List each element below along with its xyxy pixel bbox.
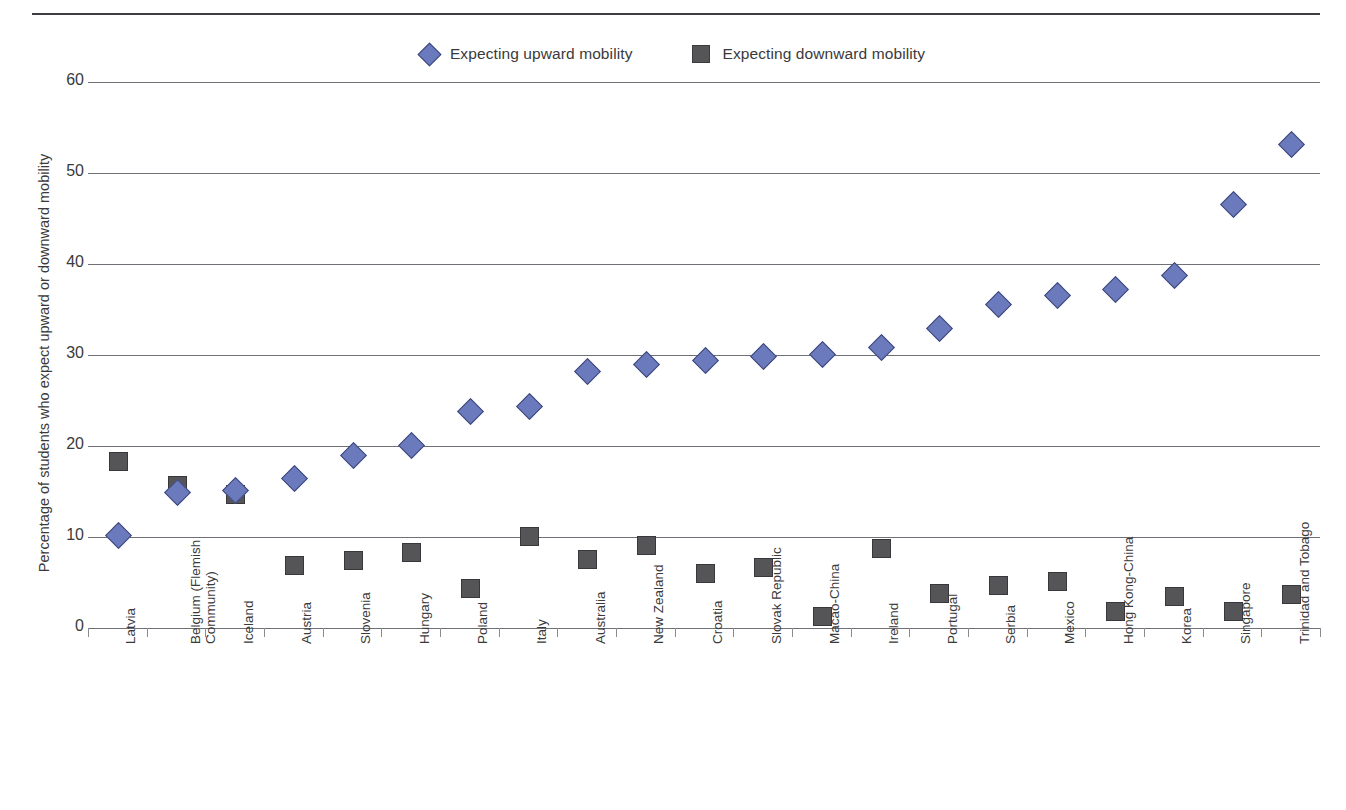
y-tick-label: 10 xyxy=(40,526,84,544)
data-point-diamond xyxy=(105,522,132,549)
gridline-20 xyxy=(88,446,1320,447)
x-category-label: Croatia xyxy=(710,600,725,644)
y-tick-label: 40 xyxy=(40,253,84,271)
data-point-square xyxy=(1106,602,1125,621)
data-point-square xyxy=(461,579,480,598)
gridline-50 xyxy=(88,173,1320,174)
data-point-square xyxy=(637,536,656,555)
x-tick xyxy=(1320,628,1321,637)
data-point-diamond xyxy=(574,358,601,385)
x-category-label: Australia xyxy=(593,591,608,644)
data-point-square xyxy=(520,527,539,546)
x-tick xyxy=(1203,628,1204,637)
x-tick xyxy=(440,628,441,637)
data-point-square xyxy=(1048,572,1067,591)
x-category-label: Ireland xyxy=(886,603,901,644)
x-category-label-line: Community) xyxy=(203,540,218,644)
x-tick xyxy=(792,628,793,637)
x-category-label: Trinidad and Tobago xyxy=(1297,522,1312,644)
x-category-label-line: Macao-China xyxy=(827,564,842,644)
data-point-square xyxy=(285,556,304,575)
data-point-diamond xyxy=(398,432,425,459)
x-category-label-line: Slovenia xyxy=(358,592,373,644)
data-point-diamond xyxy=(1044,282,1071,309)
x-category-label-line: Trinidad and Tobago xyxy=(1297,522,1312,644)
x-category-label: Latvia xyxy=(123,608,138,644)
data-point-square xyxy=(696,564,715,583)
data-point-diamond xyxy=(516,393,543,420)
x-category-label: Belgium (FlemishCommunity) xyxy=(188,540,218,644)
data-point-diamond xyxy=(457,398,484,425)
x-tick xyxy=(323,628,324,637)
x-category-label: Macao-China xyxy=(827,564,842,644)
x-tick xyxy=(264,628,265,637)
data-point-diamond xyxy=(1278,131,1305,158)
chart-plot-area: Percentage of students who expect upward… xyxy=(0,0,1346,810)
x-category-label-line: Serbia xyxy=(1003,605,1018,644)
x-category-label-line: Poland xyxy=(475,602,490,644)
data-point-diamond xyxy=(281,465,308,492)
data-point-diamond xyxy=(1220,191,1247,218)
x-category-label-line: Australia xyxy=(593,591,608,644)
data-point-diamond xyxy=(750,343,777,370)
x-category-label-line: Latvia xyxy=(123,608,138,644)
y-tick-label: 60 xyxy=(40,71,84,89)
x-category-label: Korea xyxy=(1179,608,1194,644)
data-point-diamond xyxy=(868,334,895,361)
x-category-label-line: Mexico xyxy=(1062,601,1077,644)
x-category-label-line: Italy xyxy=(534,619,549,644)
data-point-diamond xyxy=(1102,276,1129,303)
x-category-label: New Zealand xyxy=(651,564,666,644)
x-tick xyxy=(1144,628,1145,637)
x-tick xyxy=(147,628,148,637)
x-tick xyxy=(381,628,382,637)
x-category-label-line: Hong Kong-China xyxy=(1121,537,1136,644)
x-tick xyxy=(1027,628,1028,637)
data-point-diamond xyxy=(1161,262,1188,289)
gridline-60 xyxy=(88,82,1320,83)
x-category-label: Austria xyxy=(299,602,314,644)
data-point-square xyxy=(1224,602,1243,621)
x-category-label-line: Iceland xyxy=(241,600,256,644)
data-point-diamond xyxy=(985,291,1012,318)
x-tick xyxy=(499,628,500,637)
gridline-40 xyxy=(88,264,1320,265)
data-point-square xyxy=(754,558,773,577)
data-point-square xyxy=(930,584,949,603)
x-category-label-line: Korea xyxy=(1179,608,1194,644)
data-point-square xyxy=(578,550,597,569)
x-category-label-line: Austria xyxy=(299,602,314,644)
y-tick-label: 20 xyxy=(40,435,84,453)
x-tick xyxy=(968,628,969,637)
data-point-square xyxy=(813,607,832,626)
x-category-label-line: Hungary xyxy=(417,593,432,644)
data-point-square xyxy=(1165,587,1184,606)
x-category-label: Iceland xyxy=(241,600,256,644)
data-point-square xyxy=(402,543,421,562)
y-tick-label: 0 xyxy=(40,617,84,635)
x-category-label-line: New Zealand xyxy=(651,564,666,644)
x-category-label-line: Ireland xyxy=(886,603,901,644)
x-tick xyxy=(616,628,617,637)
data-point-square xyxy=(109,452,128,471)
y-tick-label: 50 xyxy=(40,162,84,180)
x-category-label-line: Croatia xyxy=(710,600,725,644)
x-category-label-line: Belgium (Flemish xyxy=(188,540,203,644)
data-point-diamond xyxy=(926,315,953,342)
data-point-diamond xyxy=(809,341,836,368)
data-point-diamond xyxy=(692,347,719,374)
data-point-square xyxy=(344,551,363,570)
x-tick xyxy=(675,628,676,637)
x-category-label: Serbia xyxy=(1003,605,1018,644)
x-tick xyxy=(909,628,910,637)
x-category-label: Slovenia xyxy=(358,592,373,644)
x-category-label: Poland xyxy=(475,602,490,644)
x-tick xyxy=(1085,628,1086,637)
data-point-square xyxy=(989,576,1008,595)
x-category-label: Hungary xyxy=(417,593,432,644)
data-point-square xyxy=(872,539,891,558)
data-point-square xyxy=(1282,585,1301,604)
y-tick-label: 30 xyxy=(40,344,84,362)
x-category-label: Mexico xyxy=(1062,601,1077,644)
x-tick xyxy=(557,628,558,637)
